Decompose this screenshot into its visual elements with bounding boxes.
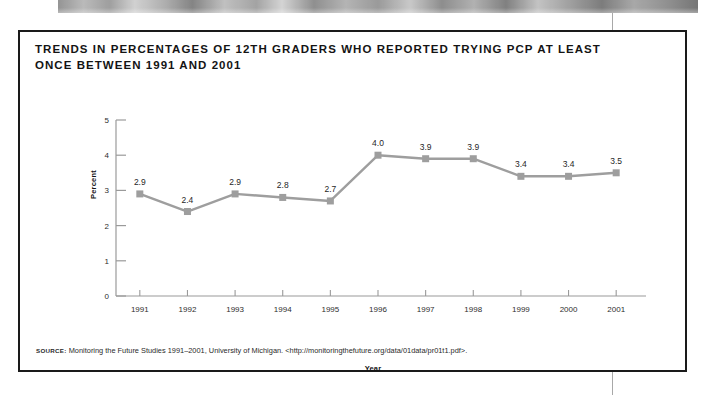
figure-title: TRENDS IN PERCENTAGES OF 12TH GRADERS WH…	[35, 41, 635, 73]
data-point-marker	[517, 173, 524, 180]
line-chart-svg: 0123451991199219931994199519961997199819…	[88, 92, 658, 332]
x-tick-label: 1992	[179, 305, 197, 314]
x-tick-label: 1999	[512, 305, 530, 314]
x-tick-label: 2001	[607, 305, 625, 314]
photo-strip-fade	[58, 0, 698, 13]
y-tick-label: 4	[105, 151, 110, 160]
data-point-marker	[232, 190, 239, 197]
series-line	[140, 155, 616, 211]
data-point-marker	[613, 169, 620, 176]
y-axis-title: Percent	[89, 150, 98, 220]
data-point-label: 4.0	[372, 138, 384, 148]
data-point-label: 2.8	[277, 180, 289, 190]
data-point-marker	[279, 194, 286, 201]
data-point-marker	[136, 190, 143, 197]
data-point-label: 2.9	[229, 177, 241, 187]
x-tick-label: 1996	[369, 305, 387, 314]
chart-plot-area: Percent 01234519911992199319941995199619…	[88, 92, 658, 332]
y-tick-label: 5	[105, 116, 110, 125]
source-note: Source: Monitoring the Future Studies 19…	[36, 346, 666, 356]
x-tick-label: 1997	[417, 305, 435, 314]
y-tick-label: 1	[105, 257, 110, 266]
x-axis-title: Year	[88, 364, 658, 373]
data-point-label: 2.7	[324, 184, 336, 194]
data-point-marker	[184, 208, 191, 215]
data-point-marker	[470, 155, 477, 162]
data-point-label: 2.9	[134, 177, 146, 187]
data-point-label: 3.9	[420, 142, 432, 152]
data-point-label: 3.4	[563, 159, 575, 169]
x-tick-label: 1994	[274, 305, 292, 314]
y-tick-label: 3	[105, 186, 110, 195]
data-point-marker	[422, 155, 429, 162]
data-point-marker	[327, 197, 334, 204]
x-tick-label: 1995	[321, 305, 339, 314]
x-tick-label: 2000	[560, 305, 578, 314]
x-tick-label: 1998	[464, 305, 482, 314]
y-tick-label: 0	[105, 292, 110, 301]
x-tick-label: 1991	[131, 305, 149, 314]
source-label: Source:	[36, 347, 67, 354]
x-tick-label: 1993	[226, 305, 244, 314]
data-point-label: 3.5	[610, 156, 622, 166]
data-point-label: 3.4	[515, 159, 527, 169]
data-point-marker	[565, 173, 572, 180]
source-text: Monitoring the Future Studies 1991–2001,…	[69, 346, 468, 355]
data-point-label: 3.9	[467, 142, 479, 152]
data-point-label: 2.4	[182, 195, 194, 205]
figure-box: TRENDS IN PERCENTAGES OF 12TH GRADERS WH…	[18, 30, 687, 372]
y-tick-label: 2	[105, 222, 110, 231]
data-point-marker	[375, 152, 382, 159]
